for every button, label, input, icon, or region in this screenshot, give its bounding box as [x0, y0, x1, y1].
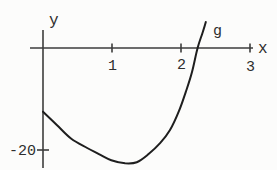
figure-graph-of-g: y x 1 2 3 -20 g — [0, 0, 277, 170]
y-axis-label: y — [49, 12, 59, 30]
plot-svg: y x 1 2 3 -20 g — [0, 0, 277, 170]
y-tick-label-neg20: -20 — [9, 143, 36, 160]
x-tick-label-1: 1 — [108, 58, 117, 75]
x-tick-label-2: 2 — [177, 57, 186, 74]
x-tick-label-3: 3 — [246, 59, 255, 76]
x-axis-label: x — [258, 40, 268, 58]
curve-g — [43, 22, 206, 164]
curve-label: g — [213, 23, 222, 40]
